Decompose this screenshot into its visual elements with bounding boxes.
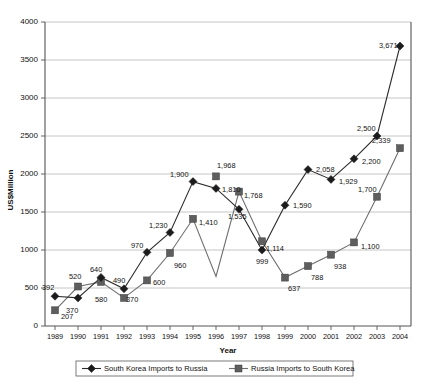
x-tick-label-1999: 1999: [277, 332, 293, 341]
data-point-square-2001: [328, 251, 335, 258]
gridlines: [45, 22, 411, 288]
data-point-square-1989: [52, 307, 59, 314]
data-point-square-1994: [167, 250, 174, 257]
data-label-b-2000: 788: [311, 273, 323, 282]
data-point-diamond-1995: [189, 178, 197, 186]
y-tick-label-0: 0: [34, 321, 39, 330]
x-tick-label-1998: 1998: [254, 332, 270, 341]
data-label-b-2004: 2,339: [372, 136, 391, 145]
data-label-b-1998: 1,114: [266, 244, 284, 253]
x-tick-label-2002: 2002: [346, 332, 362, 341]
x-tickmarks: [55, 326, 400, 330]
data-label-a-2002: 2,200: [362, 157, 381, 166]
data-point-square-1993: [144, 277, 151, 284]
data-point-diamond-1992: [120, 285, 128, 293]
data-point-square-2000: [305, 263, 312, 270]
data-label-a-1995: 1,900: [170, 170, 189, 179]
series-line-southkorea-imports: [55, 46, 400, 298]
data-label-a-2001: 1,929: [339, 177, 358, 186]
y-tick-label-2000: 2000: [20, 169, 38, 178]
data-label-a-1996: 1,810: [222, 185, 241, 194]
data-label-b-1992: 370: [126, 295, 138, 304]
data-point-square-1990: [75, 283, 82, 290]
data-label-b-1996: 1,968: [217, 161, 236, 170]
data-label-a-1994: 1,230: [149, 221, 168, 230]
y-tick-label-1000: 1000: [20, 245, 38, 254]
data-point-square-1999: [282, 274, 289, 281]
x-tick-label-2001: 2001: [323, 332, 339, 341]
y-tick-label-4000: 4000: [20, 17, 38, 26]
data-label-b-2001: 938: [334, 262, 346, 271]
x-tick-label-1989: 1989: [47, 332, 63, 341]
data-label-b-1991: 580: [95, 295, 107, 304]
legend-label-southkorea-imports: South Korea Imports to Russia: [104, 364, 208, 373]
x-tick-labels: 1989 1990 1991 1992 1993 1994 1995 1996 …: [47, 332, 408, 341]
data-label-b-1989: 207: [61, 312, 73, 321]
data-label-a-1997: 1,535: [228, 212, 247, 221]
x-tick-label-2000: 2000: [300, 332, 316, 341]
data-point-square-2004: [397, 145, 404, 152]
data-labels-russia-imports: 207 520 580 370 600 960 1,410 1,968 1,76…: [61, 136, 391, 321]
y-tick-label-1500: 1500: [20, 207, 38, 216]
data-label-b-1995: 1,410: [199, 218, 218, 227]
chart-legend: South Korea Imports to Russia Russia Imp…: [76, 361, 355, 376]
data-label-a-1999: 1,590: [293, 201, 312, 210]
legend-label-russia-imports: Russia Imports to South Korea: [251, 364, 355, 373]
data-point-square-1995: [190, 215, 197, 222]
line-chart: 4000 3500 3000 2500 2000 1500 1000 500 0…: [0, 0, 429, 382]
x-tick-label-1992: 1992: [116, 332, 132, 341]
data-point-square-2002: [351, 239, 358, 246]
x-tick-label-1997: 1997: [231, 332, 247, 341]
data-point-diamond-1999: [281, 201, 289, 209]
x-tick-label-1991: 1991: [93, 332, 109, 341]
y-tick-labels: 4000 3500 3000 2500 2000 1500 1000 500 0: [20, 17, 38, 330]
series-line-russia-imports: [55, 148, 400, 310]
data-label-a-1992: 490: [113, 276, 125, 285]
square-marker-icon: [235, 365, 242, 372]
y-tick-label-3000: 3000: [20, 93, 38, 102]
y-tick-label-2500: 2500: [20, 131, 38, 140]
data-point-square-2003: [374, 193, 381, 200]
data-label-a-2000: 2,058: [316, 165, 335, 174]
chart-container: 4000 3500 3000 2500 2000 1500 1000 500 0…: [0, 0, 429, 382]
data-label-b-2002: 1,100: [361, 242, 380, 251]
x-tick-label-1993: 1993: [139, 332, 155, 341]
data-label-a-2004: 3,671: [379, 41, 398, 50]
y-tickmarks: [41, 22, 45, 326]
data-label-b-1993: 600: [153, 278, 165, 287]
x-tick-label-1996: 1996: [208, 332, 224, 341]
series-markers-southkorea-imports: [51, 42, 404, 302]
data-label-a-1991: 640: [90, 265, 102, 274]
x-tick-label-1994: 1994: [162, 332, 178, 341]
y-tick-label-3500: 3500: [20, 55, 38, 64]
data-label-b-1990: 520: [69, 272, 81, 281]
data-point-square-1996: [213, 173, 220, 180]
data-label-a-1998: 999: [256, 257, 268, 266]
x-tick-label-2004: 2004: [392, 332, 408, 341]
data-label-a-1989: 392: [42, 283, 54, 292]
data-label-b-2003: 1,700: [358, 185, 377, 194]
series-markers-russia-imports: [52, 145, 404, 314]
x-tick-label-1990: 1990: [70, 332, 86, 341]
data-label-b-1997: 1,768: [244, 191, 263, 200]
data-point-diamond-1998: [258, 246, 266, 254]
y-tick-label-500: 500: [25, 283, 39, 292]
y-axis-title: US$Million: [6, 169, 15, 210]
data-label-a-1993: 970: [131, 241, 143, 250]
x-tick-label-1995: 1995: [185, 332, 201, 341]
data-label-b-1999: 637: [288, 284, 300, 293]
data-label-a-2003: 2,500: [357, 124, 376, 133]
data-point-diamond-2000: [304, 166, 312, 174]
data-point-square-1998: [259, 238, 266, 245]
x-axis-title: Year: [220, 346, 237, 355]
x-tick-label-2003: 2003: [369, 332, 385, 341]
data-point-diamond-1989: [51, 292, 59, 300]
data-label-b-1994: 960: [174, 261, 186, 270]
